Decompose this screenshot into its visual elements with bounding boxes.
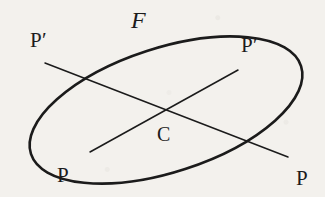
point-label-p-bottom-left: P [57,165,69,186]
figure-canvas: F P′ P′ P P C [0,0,325,197]
point-label-p-bottom-right: P [296,168,308,189]
ellipse-diagram-svg [0,0,325,197]
center-label-c: C [157,124,170,144]
point-label-p-prime-top-right: P′ [241,35,258,56]
ellipse-name-label: F [131,8,146,32]
point-label-p-prime-top-left: P′ [30,30,47,51]
